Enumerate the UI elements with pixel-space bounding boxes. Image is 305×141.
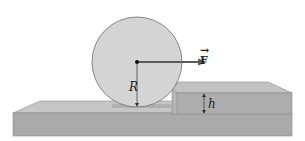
step-top-face [172, 82, 292, 93]
base-front-face [13, 113, 292, 136]
force-vector-mark: → [200, 44, 209, 57]
wheel-center-dot [135, 60, 139, 64]
radius-label: R [128, 80, 138, 94]
step-front-face [177, 93, 292, 114]
step-height-label: h [208, 97, 216, 111]
wheel-step-diagram: R h F → [0, 0, 305, 141]
